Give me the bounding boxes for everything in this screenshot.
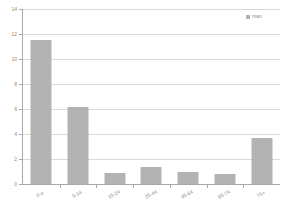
y-axis-tick-label: 12 — [11, 32, 17, 37]
bar-chart: 02468101214 0-45-1415-2425-4445-6465-747… — [0, 0, 288, 208]
y-axis-tick-label: 6 — [14, 107, 17, 112]
x-axis-tick-mark — [96, 184, 97, 188]
y-axis-tick-label: 10 — [11, 57, 17, 62]
bars-group — [23, 9, 280, 184]
bar — [68, 107, 89, 185]
bar-slot — [60, 9, 97, 184]
bar-slot — [207, 9, 244, 184]
y-axis-tick-mark — [19, 184, 23, 185]
y-axis-tick-label: 14 — [11, 7, 17, 12]
y-axis-tick-label: 8 — [14, 82, 17, 87]
bar-slot — [170, 9, 207, 184]
x-axis-tick-label: 15-24 — [107, 189, 121, 200]
x-axis-tick-mark — [170, 184, 171, 188]
bar-slot — [133, 9, 170, 184]
bar — [141, 167, 162, 185]
bar — [31, 40, 52, 184]
y-axis-tick-label: 0 — [14, 182, 17, 187]
y-axis-tick-label: 2 — [14, 157, 17, 162]
x-axis-tick-mark — [243, 184, 244, 188]
legend-swatch-man — [246, 15, 250, 19]
y-axis-tick-label: 4 — [14, 132, 17, 137]
bar — [178, 172, 199, 184]
plot-area: 02468101214 — [22, 9, 280, 185]
bar — [104, 173, 125, 184]
x-axis-tick-label: 45-64 — [180, 189, 194, 200]
x-axis-tick-label: 0-4 — [36, 191, 45, 199]
x-axis-tick-label: 65-74 — [217, 189, 231, 200]
bar — [251, 138, 272, 184]
bar-slot — [243, 9, 280, 184]
x-axis-tick-label: 5-14 — [71, 190, 82, 199]
legend-label-man: man — [252, 14, 262, 19]
x-axis-tick-label: 25-44 — [144, 189, 158, 200]
x-axis-tick-mark — [60, 184, 61, 188]
bar — [214, 174, 235, 184]
x-axis-tick-mark — [133, 184, 134, 188]
bar-slot — [23, 9, 60, 184]
legend: man — [246, 14, 262, 19]
x-axis-tick-mark — [207, 184, 208, 188]
bar-slot — [96, 9, 133, 184]
x-axis-tick-label: 75+ — [256, 190, 266, 199]
